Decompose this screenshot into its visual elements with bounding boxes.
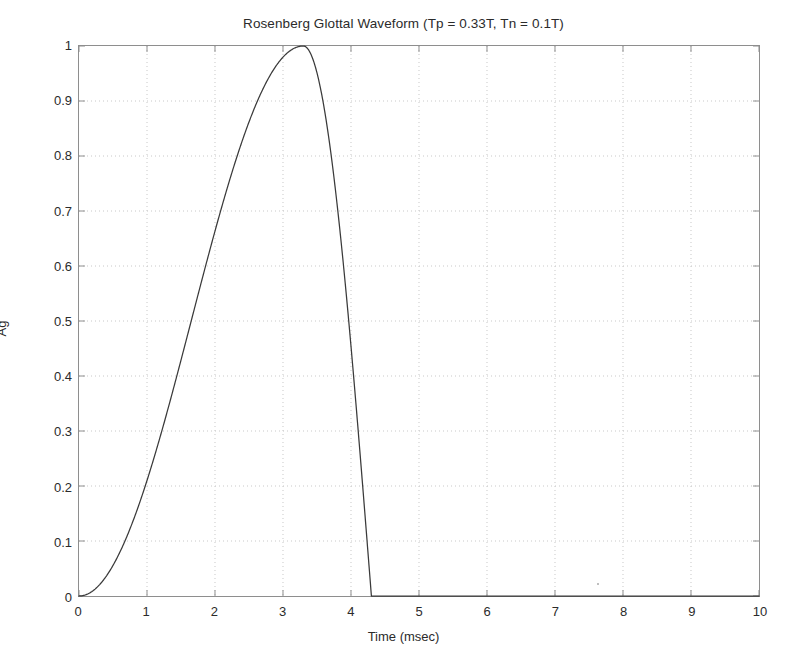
x-tick-label: 5 xyxy=(389,604,449,619)
y-tick-label: 0.6 xyxy=(12,258,72,273)
x-axis-title: Time (msec) xyxy=(0,629,807,644)
y-tick-label: 0.1 xyxy=(12,534,72,549)
x-tick-label: 8 xyxy=(594,604,654,619)
x-axis-tick-labels: 012345678910 xyxy=(78,604,760,626)
x-tick-label: 7 xyxy=(525,604,585,619)
grid-lines xyxy=(79,46,759,596)
plot-svg xyxy=(79,46,759,596)
y-tick-label: 0.9 xyxy=(12,93,72,108)
x-tick-label: 3 xyxy=(253,604,313,619)
x-tick-label: 6 xyxy=(457,604,517,619)
x-tick-label: 2 xyxy=(184,604,244,619)
y-tick-label: 0.3 xyxy=(12,424,72,439)
y-tick-label: 0.2 xyxy=(12,479,72,494)
y-tick-label: 0 xyxy=(12,590,72,605)
y-tick-label: 0.4 xyxy=(12,369,72,384)
y-tick-label: 1 xyxy=(12,38,72,53)
x-tick-label: 4 xyxy=(321,604,381,619)
y-axis-tick-labels: 00.10.20.30.40.50.60.70.80.91 xyxy=(6,45,72,597)
scan-speck-artifact xyxy=(597,583,599,585)
chart-figure: Rosenberg Glottal Waveform (Tp = 0.33T, … xyxy=(0,0,807,670)
y-tick-label: 0.7 xyxy=(12,203,72,218)
y-tick-label: 0.8 xyxy=(12,148,72,163)
y-tick-label: 0.5 xyxy=(12,314,72,329)
plot-area xyxy=(78,45,760,597)
x-tick-label: 0 xyxy=(48,604,108,619)
chart-title: Rosenberg Glottal Waveform (Tp = 0.33T, … xyxy=(0,16,807,31)
x-tick-label: 9 xyxy=(662,604,722,619)
x-tick-label: 10 xyxy=(730,604,790,619)
x-tick-label: 1 xyxy=(116,604,176,619)
